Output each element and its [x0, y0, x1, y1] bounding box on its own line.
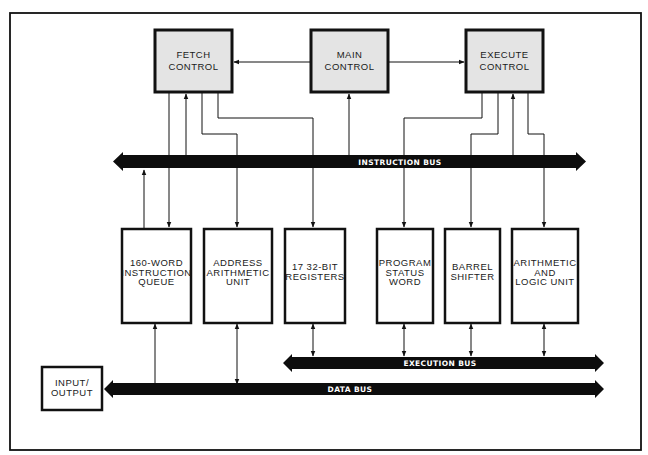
alu-label-line3: LOGIC UNIT [515, 276, 574, 287]
io-label-line2: OUTPUT [51, 387, 93, 398]
main-control-block: MAIN CONTROL [311, 30, 388, 92]
execution-bus-label: EXECUTION BUS [403, 359, 476, 368]
fetch-control-label-line2: CONTROL [169, 61, 219, 72]
main-control-label-line2: CONTROL [325, 61, 375, 72]
execute-control-block: EXECUTE CONTROL [466, 30, 543, 92]
fetch-control-label-line1: FETCH [176, 49, 210, 60]
execute-control-label-line1: EXECUTE [480, 49, 528, 60]
queue-label-line3: QUEUE [138, 276, 174, 287]
data-bus: DATA BUS [104, 380, 604, 398]
processor-block-diagram: INSTRUCTION BUS EXECUTION BUS DATA BUS F… [0, 0, 648, 455]
program-status-word-unit: PROGRAM STATUS WORD [377, 229, 433, 323]
main-control-label-line1: MAIN [337, 49, 363, 60]
execute-control-label-line2: CONTROL [480, 61, 530, 72]
shifter-label-line2: SHIFTER [450, 271, 494, 282]
connection-wires [144, 62, 544, 385]
registers-label-line2: REGISTERS [285, 271, 344, 282]
psw-label-line3: WORD [389, 276, 421, 287]
data-bus-label: DATA BUS [328, 385, 373, 394]
address-arithmetic-unit: ADDRESS ARITHMETIC UNIT [204, 229, 272, 323]
input-output-block: INPUT/ OUTPUT [42, 367, 102, 410]
instruction-queue-unit: 160-WORD INSTRUCTION QUEUE [121, 229, 191, 323]
fetch-control-block: FETCH CONTROL [155, 30, 232, 92]
instruction-bus-label: INSTRUCTION BUS [358, 158, 441, 167]
registers-unit: 17 32-BIT REGISTERS [285, 229, 345, 323]
barrel-shifter-unit: BARREL SHIFTER [445, 229, 500, 323]
address-label-line3: UNIT [226, 276, 250, 287]
alu-unit: ARITHMETIC AND LOGIC UNIT [512, 229, 578, 323]
execution-bus: EXECUTION BUS [283, 354, 604, 372]
